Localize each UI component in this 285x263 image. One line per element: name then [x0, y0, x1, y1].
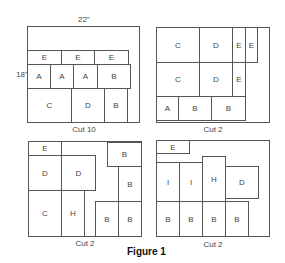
- piece: E: [27, 50, 62, 65]
- piece: B: [104, 88, 128, 123]
- piece: E: [61, 50, 95, 65]
- piece: E: [232, 62, 246, 97]
- piece: C: [156, 27, 200, 63]
- board-height-label: 18": [16, 70, 28, 79]
- piece: C: [156, 62, 200, 97]
- piece: E: [245, 27, 258, 63]
- cut-label: Cut 2: [153, 240, 273, 249]
- figure-caption: Figure 1: [127, 246, 166, 257]
- piece: C: [28, 190, 62, 237]
- piece: A: [156, 96, 179, 121]
- piece: H: [202, 156, 226, 202]
- piece: C: [27, 88, 72, 123]
- piece: E: [232, 27, 246, 63]
- piece: B: [156, 201, 180, 237]
- piece: I: [179, 162, 203, 202]
- piece: A: [50, 64, 74, 89]
- piece: B: [202, 201, 226, 237]
- piece: E: [94, 50, 129, 65]
- piece: D: [61, 155, 96, 191]
- piece: D: [71, 88, 105, 123]
- cut-label: Cut 10: [24, 125, 144, 134]
- piece: D: [199, 27, 233, 63]
- piece: B: [118, 166, 142, 202]
- piece: B: [95, 201, 119, 237]
- board-width-label: 22": [78, 15, 90, 24]
- piece: B: [97, 64, 131, 89]
- piece: B: [107, 142, 142, 167]
- piece: B: [178, 96, 212, 121]
- piece: D: [199, 62, 233, 97]
- piece: D: [225, 166, 259, 199]
- piece: E: [28, 141, 62, 156]
- piece: D: [28, 155, 62, 191]
- piece: H: [61, 190, 85, 237]
- piece: B: [179, 201, 203, 237]
- piece: B: [118, 201, 142, 237]
- piece: A: [27, 64, 51, 89]
- piece: I: [156, 162, 180, 202]
- piece: B: [211, 96, 246, 121]
- cut-label: Cut 2: [153, 125, 273, 134]
- piece: A: [73, 64, 98, 89]
- piece: E: [156, 140, 190, 154]
- piece: B: [225, 201, 249, 237]
